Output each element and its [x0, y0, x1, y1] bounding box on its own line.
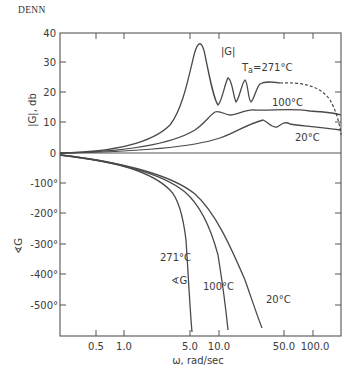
annotation-mag-20: 20°C: [295, 132, 320, 143]
plot-frame: [60, 33, 341, 336]
y-tick-m100: -100°: [30, 178, 58, 189]
y-ticks-left: [60, 62, 66, 305]
y-tick-30: 30: [43, 57, 56, 68]
annotation-mag-100: 100°C: [272, 97, 303, 108]
y-tick-m300: -300°: [30, 239, 58, 250]
x-tick-50.0: 50.0: [273, 341, 295, 352]
magnitude-curve-271c: [60, 44, 280, 153]
x-tick-0.5: 0.5: [88, 341, 104, 352]
y-axis-label-phase: ∢G: [13, 238, 24, 254]
annotation-phase-100: 100°C: [203, 281, 234, 292]
annotation-phase-271: 271°C: [160, 252, 191, 263]
y-tick-40: 40: [43, 28, 56, 39]
y-ticks-right: [335, 62, 341, 305]
y-tick-10: 10: [43, 117, 56, 128]
y-tick-m400: -400°: [30, 269, 58, 280]
phase-curve-20c: [60, 155, 262, 328]
annotation-phase-20: 20°C: [266, 294, 291, 305]
y-tick-m200: -200°: [30, 208, 58, 219]
x-tick-1.0: 1.0: [116, 341, 132, 352]
bode-chart: 40 30 20 10 0 -100° -200° -300° -400° -5…: [0, 0, 358, 376]
phase-curve-271c: [60, 155, 192, 332]
phase-curve-100c: [60, 155, 228, 330]
y-tick-m500: -500°: [30, 300, 58, 311]
x-tick-100.0: 100.0: [301, 341, 330, 352]
x-tick-10.0: 10.0: [208, 341, 230, 352]
y-tick-0: 0: [50, 148, 56, 159]
x-axis-label: ω, rad/sec: [172, 355, 224, 366]
y-tick-20: 20: [43, 87, 56, 98]
x-tick-5.0: 5.0: [182, 341, 198, 352]
annotation-magnitude: |G|: [221, 46, 236, 58]
y-axis-label-magnitude: |G|, db: [27, 93, 39, 127]
annotation-phase-label: ∢G: [171, 275, 187, 286]
annotation-mag-271: Ta=271°C: [241, 62, 292, 75]
magnitude-271c-extrapolation: [280, 83, 341, 135]
